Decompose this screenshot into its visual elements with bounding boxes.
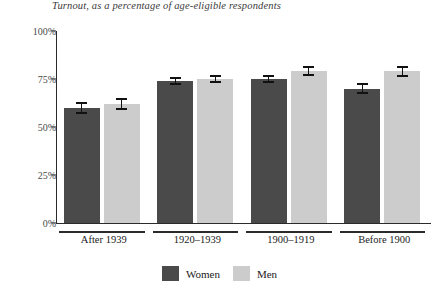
y-axis-tick-mark [51, 222, 56, 223]
group-separator-rule [340, 231, 426, 233]
x-axis-category-label: 1900–1919 [244, 234, 338, 245]
group-separator-rule [59, 231, 145, 233]
group-separator-rule [246, 231, 332, 233]
bar-men [291, 71, 327, 223]
error-bar-cap-upper [263, 75, 274, 77]
men-swatch [233, 266, 250, 281]
y-axis-tick-label: 25% [12, 170, 56, 181]
legend-item[interactable]: Men [233, 266, 277, 281]
error-bar-cap-lower [303, 74, 314, 76]
bar-chart: Turnout, as a percentage of age-eligible… [0, 0, 439, 298]
bar-women [251, 79, 287, 223]
chart-title: Turnout, as a percentage of age-eligible… [52, 0, 281, 11]
bar-men [104, 104, 140, 223]
legend-item[interactable]: Women [162, 266, 220, 281]
legend-item-label: Women [186, 268, 220, 280]
y-axis-line [56, 31, 57, 223]
error-bar-cap-upper [76, 102, 87, 104]
error-bar-cap-upper [116, 98, 127, 100]
bar-men [384, 71, 420, 223]
error-bar-cap-upper [170, 77, 181, 79]
y-axis-tick-label: 50% [12, 122, 56, 133]
bar-women [64, 108, 100, 223]
chart-legend: WomenMen [0, 266, 439, 281]
legend-item-label: Men [257, 268, 277, 280]
y-axis-tick-mark [51, 174, 56, 175]
error-bar-cap-upper [303, 66, 314, 68]
error-bar-cap-upper [210, 75, 221, 77]
bar-women [157, 81, 193, 223]
error-bar-cap-upper [357, 83, 368, 85]
error-bar-cap-lower [116, 108, 127, 110]
y-axis-tick-label: 0% [12, 218, 56, 229]
y-axis-tick-mark [51, 30, 56, 31]
bar-women [344, 89, 380, 223]
error-bar-cap-lower [397, 75, 408, 77]
error-bar-cap-lower [210, 81, 221, 83]
y-axis-tick-mark [51, 78, 56, 79]
error-bar-cap-lower [263, 81, 274, 83]
x-axis-category-label: 1920–1939 [151, 234, 245, 245]
group-separator-rule [153, 231, 239, 233]
error-bar-cap-lower [76, 112, 87, 114]
x-axis-category-label: Before 1900 [338, 234, 432, 245]
error-bar-cap-lower [357, 92, 368, 94]
women-swatch [162, 266, 179, 281]
y-axis-tick-label: 75% [12, 74, 56, 85]
y-axis-tick-label: 100% [12, 26, 56, 37]
bar-men [197, 79, 233, 223]
error-bar-cap-upper [397, 66, 408, 68]
y-axis-tick-mark [51, 126, 56, 127]
x-axis-category-label: After 1939 [57, 234, 151, 245]
error-bar-cap-lower [170, 83, 181, 85]
